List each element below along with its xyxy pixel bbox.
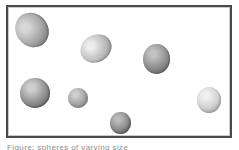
sphere-7: [197, 87, 221, 113]
figure-caption: Figure: spheres of varying size: [7, 143, 233, 150]
particle-field: [8, 7, 230, 136]
sphere-2: [76, 29, 117, 68]
figure-container: Figure: spheres of varying size: [0, 0, 239, 150]
sphere-1: [8, 7, 55, 54]
sphere-4: [20, 78, 50, 108]
sphere-5: [68, 88, 88, 108]
diagram-panel: [6, 5, 232, 138]
sphere-6: [110, 112, 131, 134]
sphere-3: [143, 44, 170, 74]
